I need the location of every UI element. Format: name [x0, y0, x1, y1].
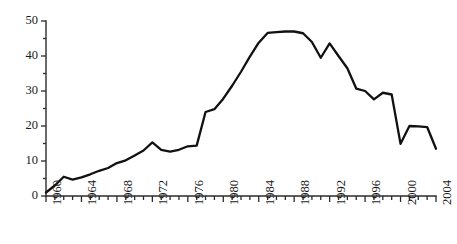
y-axis-ticks: [41, 21, 46, 196]
x-tick-label: 2004: [441, 180, 454, 205]
y-tick-label: 50: [26, 14, 39, 27]
y-tick-label: 20: [26, 119, 39, 132]
data-series-line: [46, 32, 436, 193]
line-chart: 01020304050 1960196419681972197619801984…: [0, 0, 457, 244]
y-tick-label: 40: [26, 49, 39, 62]
x-tick-label: 1964: [86, 180, 99, 205]
x-tick-label: 1984: [264, 180, 277, 205]
x-tick-label: 1960: [51, 180, 64, 205]
y-tick-label: 0: [32, 189, 38, 202]
x-tick-label: 1992: [335, 180, 348, 205]
x-tick-label: 1976: [193, 180, 206, 205]
y-tick-label: 10: [26, 154, 39, 167]
x-tick-label: 1972: [157, 180, 170, 205]
x-tick-label: 1996: [370, 180, 383, 205]
y-tick-label: 30: [26, 84, 39, 97]
x-tick-label: 1980: [228, 180, 241, 205]
x-tick-label: 1988: [299, 180, 312, 205]
x-tick-label: 1968: [122, 180, 135, 205]
x-tick-label: 2000: [406, 180, 419, 205]
chart-plot-area: [0, 0, 457, 244]
